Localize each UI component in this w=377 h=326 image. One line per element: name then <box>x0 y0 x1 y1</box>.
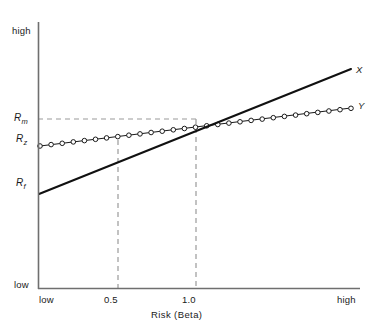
y-value-label-rz-subscript: z <box>23 138 27 147</box>
y-value-label-rf: Rf <box>16 177 26 191</box>
x-axis-high-label: high <box>337 294 356 305</box>
x-axis-title: Risk (Beta) <box>151 309 202 320</box>
series-y-label: Y <box>358 100 365 111</box>
y-value-label-rz: Rz <box>16 133 27 147</box>
series-x-label: X <box>356 64 363 75</box>
y-value-label-rm-subscript: m <box>21 117 27 126</box>
x-axis-low-label: low <box>39 294 54 305</box>
chart-container: high low Rm Rz Rf low 0.5 1.0 high Risk … <box>0 0 377 326</box>
y-axis-low-label: low <box>14 279 29 290</box>
y-value-label-rm: Rm <box>14 112 28 126</box>
series-x-line <box>39 69 351 194</box>
chart-plot-area <box>0 0 377 326</box>
y-value-label-rf-subscript: f <box>23 182 25 191</box>
x-axis-tick-0-5: 0.5 <box>104 294 118 305</box>
x-axis-tick-1-0: 1.0 <box>182 294 196 305</box>
y-axis-high-label: high <box>12 25 31 36</box>
